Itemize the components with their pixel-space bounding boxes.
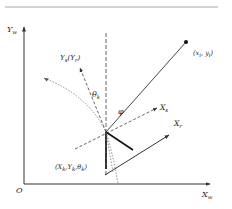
robot-x-label: Xr (173, 119, 182, 129)
sensor-y-label: Ys(Yr) (60, 54, 80, 63)
bearing-angle-label: φ (118, 107, 124, 116)
sensor-x-axis (75, 108, 157, 149)
sensor-y-axis (80, 68, 106, 132)
world-y-label: Yw (7, 25, 17, 35)
target-point-label: (xi, yi) (193, 49, 214, 58)
target-point (184, 40, 188, 44)
heading-angle-label: θk (92, 90, 101, 100)
robot-pose-label: (Xk,Yk,θk) (55, 163, 88, 172)
origin-label: O (16, 186, 23, 195)
coordinate-frame-diagram: Yw Xw O Ys(Yr) Xs Xr θk φ (xi, yi) (Xk,Y… (0, 0, 232, 209)
world-x-label: Xw (201, 190, 213, 200)
sensor-x-label: Xs (159, 103, 168, 113)
robot-x-axis (105, 135, 169, 175)
